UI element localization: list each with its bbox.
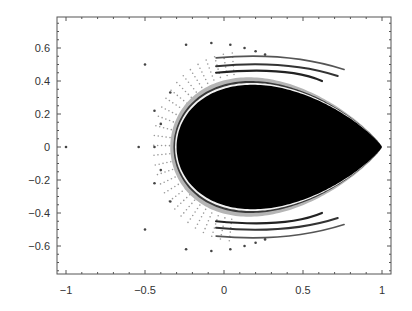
x-tick-label: −0.5 — [134, 284, 156, 296]
x-tick-label: −1 — [60, 284, 73, 296]
x-tick-label: 1 — [379, 284, 385, 296]
y-axis-tick-labels: 0.60.40.20−0.2−0.4−0.6 — [28, 42, 50, 252]
y-tick-label: −0.6 — [28, 240, 50, 252]
y-tick-label: −0.4 — [28, 207, 50, 219]
filled-region — [177, 85, 382, 209]
y-tick-label: 0.6 — [35, 42, 50, 54]
y-tick-label: 0 — [44, 141, 50, 153]
y-tick-label: 0.4 — [35, 75, 50, 87]
y-tick-label: 0.2 — [35, 108, 50, 120]
y-tick-label: −0.2 — [28, 174, 50, 186]
plot-content — [65, 42, 382, 253]
x-tick-label: 0.5 — [295, 284, 310, 296]
x-tick-label: 0 — [221, 284, 227, 296]
scatter-plot: −1−0.500.51 0.60.40.20−0.2−0.4−0.6 — [0, 0, 412, 311]
x-axis-tick-labels: −1−0.500.51 — [60, 284, 385, 296]
